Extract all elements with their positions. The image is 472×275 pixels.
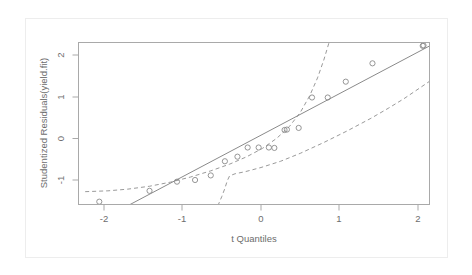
y-tick-label: 0 xyxy=(55,136,66,141)
y-tick-label: 2 xyxy=(55,52,66,57)
data-point xyxy=(272,145,277,150)
x-tick-label: 0 xyxy=(258,213,263,224)
data-points-layer xyxy=(97,43,426,204)
qq-reference-line xyxy=(128,42,437,206)
plot-canvas: -2 -1 0 1 2 2 1 0 -1 Studentized Residua… xyxy=(0,0,472,275)
data-point xyxy=(147,188,152,193)
data-point xyxy=(256,145,261,150)
data-point xyxy=(192,177,197,182)
x-tick-label: 2 xyxy=(415,213,420,224)
y-tick-label: 1 xyxy=(55,94,66,99)
x-axis-ticks xyxy=(104,205,418,211)
upper-confidence-envelope xyxy=(85,42,329,192)
data-point xyxy=(343,79,348,84)
x-axis-tick-labels: -2 -1 0 1 2 xyxy=(100,213,421,224)
data-point xyxy=(222,159,227,164)
qq-plot-figure: -2 -1 0 1 2 2 1 0 -1 Studentized Residua… xyxy=(0,0,472,275)
data-point xyxy=(97,199,102,204)
x-tick-label: -1 xyxy=(178,213,186,224)
data-point xyxy=(235,154,240,159)
lower-confidence-envelope xyxy=(218,77,437,206)
data-point xyxy=(245,145,250,150)
data-point xyxy=(309,95,314,100)
data-point xyxy=(296,125,301,130)
data-point xyxy=(208,173,213,178)
y-axis-ticks xyxy=(73,55,79,180)
x-tick-label: 1 xyxy=(336,213,341,224)
y-axis-title: Studentized Residuals(yield.fit) xyxy=(38,58,49,188)
data-point xyxy=(370,61,375,66)
plot-panel-box xyxy=(79,43,430,205)
y-tick-label: -1 xyxy=(55,176,66,184)
x-axis-title: t Quantiles xyxy=(231,233,277,244)
y-axis-tick-labels: 2 1 0 -1 xyxy=(55,52,66,184)
data-point xyxy=(266,145,271,150)
x-tick-label: -2 xyxy=(100,213,108,224)
